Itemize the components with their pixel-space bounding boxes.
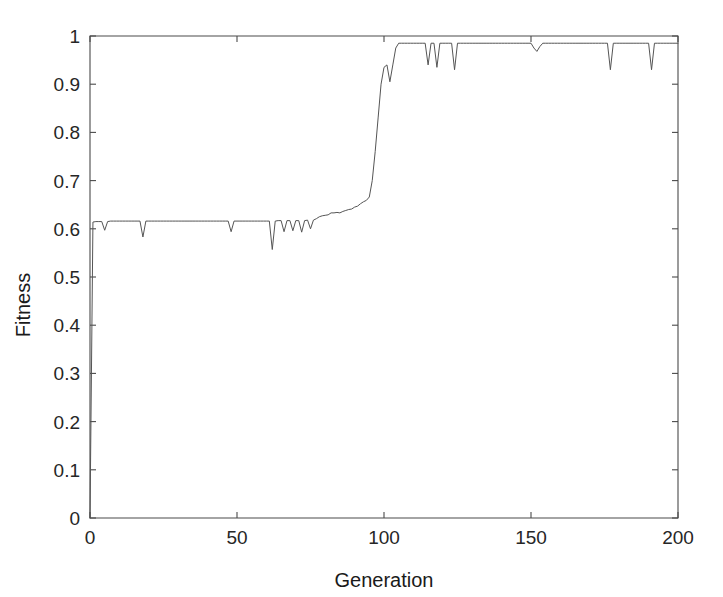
chart-background <box>0 0 723 597</box>
y-tick-label: 0.8 <box>54 122 80 143</box>
y-tick-label: 0.9 <box>54 74 80 95</box>
x-tick-label: 50 <box>226 527 247 548</box>
chart-figure: 050100150200 00.10.20.30.40.50.60.70.80.… <box>0 0 723 597</box>
x-axis-title: Generation <box>335 569 434 591</box>
x-tick-label: 200 <box>662 527 694 548</box>
y-tick-label: 0.7 <box>54 171 80 192</box>
x-tick-label: 150 <box>515 527 547 548</box>
fitness-line-chart: 050100150200 00.10.20.30.40.50.60.70.80.… <box>0 0 723 597</box>
y-tick-label: 0.6 <box>54 219 80 240</box>
y-tick-label: 0.3 <box>54 363 80 384</box>
y-tick-label: 0.1 <box>54 460 80 481</box>
y-tick-label: 0.5 <box>54 267 80 288</box>
x-tick-label: 100 <box>368 527 400 548</box>
y-tick-label: 0.4 <box>54 315 81 336</box>
y-tick-label: 1 <box>69 26 80 47</box>
y-axis-title: Fitness <box>12 273 34 337</box>
y-tick-label: 0.2 <box>54 412 80 433</box>
y-tick-label: 0 <box>69 508 80 529</box>
x-tick-label: 0 <box>85 527 96 548</box>
